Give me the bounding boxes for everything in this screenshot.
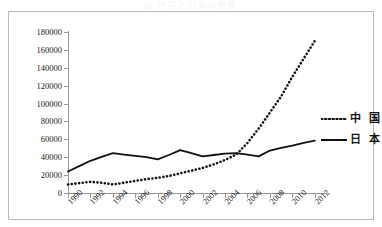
y-axis-tick: [64, 121, 68, 122]
legend-label-japan: 日 本: [350, 134, 382, 145]
x-axis-tick: [225, 194, 226, 198]
x-axis-tick: [315, 194, 316, 198]
legend-item-japan: 日 本: [321, 129, 382, 150]
chart-legend: 中 国 日 本: [321, 108, 382, 150]
series-line-japan: [68, 141, 315, 172]
x-axis-tick: [180, 194, 181, 198]
dotted-line-icon: [321, 114, 347, 124]
y-axis-tick: [64, 175, 68, 176]
x-axis-tick: [203, 194, 204, 198]
y-axis-tick: [64, 68, 68, 69]
x-axis-tick: [292, 194, 293, 198]
page-title: 図 中国と日本の推移: [0, 0, 382, 11]
x-axis-tick: [90, 194, 91, 198]
y-axis-tick: [64, 86, 68, 87]
y-axis-tick: [64, 50, 68, 51]
solid-line-icon: [321, 135, 347, 145]
chart-page: 図 中国と日本の推移 02000040000600008000010000012…: [0, 0, 382, 227]
x-axis-tick: [270, 194, 271, 198]
y-axis-tick: [64, 32, 68, 33]
y-axis-tick: [64, 157, 68, 158]
series-line-china: [68, 41, 315, 185]
y-axis-tick: [64, 104, 68, 105]
x-axis-tick: [247, 194, 248, 198]
y-axis-tick: [64, 139, 68, 140]
x-axis-tick: [68, 194, 69, 198]
legend-item-china: 中 国: [321, 108, 382, 129]
chart-frame: 0200004000060000800001000001200001400001…: [8, 11, 374, 220]
legend-label-china: 中 国: [350, 113, 382, 124]
x-axis-tick: [158, 194, 159, 198]
x-axis-tick: [113, 194, 114, 198]
x-axis-tick: [135, 194, 136, 198]
